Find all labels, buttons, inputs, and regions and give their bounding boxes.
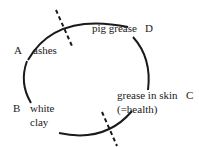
node-c-label-line1: grease in skin — [117, 89, 177, 101]
node-b-label-line1: white — [30, 102, 54, 114]
node-b-label-line2: clay — [30, 116, 48, 128]
node-d-label: pig grease — [92, 22, 137, 34]
arc-d-to-c — [133, 37, 149, 90]
arc-b-to-a — [24, 61, 31, 103]
node-c-letter: C — [186, 89, 193, 101]
node-c-label-line2: (=health) — [117, 103, 157, 115]
node-a-letter: A — [14, 44, 22, 56]
node-a-label: ashes — [33, 44, 57, 56]
node-d-letter: D — [145, 22, 153, 34]
node-b-letter: B — [13, 102, 20, 114]
